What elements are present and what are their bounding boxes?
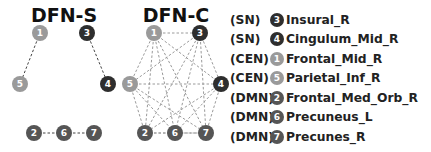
node-dfn-c-5: 5 xyxy=(122,76,138,92)
legend-region: Insural_R xyxy=(286,13,350,27)
legend-node-badge: 2 xyxy=(270,91,284,105)
edge-dfn-c-3-6 xyxy=(175,33,200,133)
legend: (SN)3Insural_R(SN)4Cingulum_Mid_R(CEN)1F… xyxy=(230,10,418,147)
panel-title-dfn-c: DFN-C xyxy=(143,4,209,26)
svg-text:7: 7 xyxy=(203,128,209,138)
edge-dfn-c-1-2 xyxy=(145,33,154,133)
legend-node-badge: 7 xyxy=(270,130,284,144)
edge-dfn-c-4-2 xyxy=(145,84,221,133)
legend-region: Frontal_Mid_R xyxy=(286,52,382,66)
legend-node-badge: 5 xyxy=(270,71,284,85)
legend-network: (DMN) xyxy=(230,130,270,144)
svg-text:2: 2 xyxy=(142,128,148,138)
legend-row: (DMN)6Precuneus_L xyxy=(230,108,418,128)
svg-text:2: 2 xyxy=(31,128,37,138)
legend-region: Precunes_R xyxy=(286,130,366,144)
svg-text:3: 3 xyxy=(197,28,203,38)
node-dfn-s-4: 4 xyxy=(100,76,116,92)
legend-node-badge: 4 xyxy=(270,32,284,46)
legend-network: (DMN) xyxy=(230,110,270,124)
edge-dfn-c-1-5 xyxy=(130,33,154,84)
edge-dfn-s-3-4 xyxy=(87,33,108,84)
svg-text:1: 1 xyxy=(37,28,43,38)
legend-network: (CEN) xyxy=(230,71,270,85)
svg-text:3: 3 xyxy=(84,28,90,38)
edge-dfn-s-1-5 xyxy=(20,33,40,84)
node-dfn-s-6: 6 xyxy=(56,125,72,141)
svg-text:6: 6 xyxy=(172,128,178,138)
legend-row: (CEN)5Parietal_Inf_R xyxy=(230,69,418,89)
node-dfn-c-1: 1 xyxy=(146,25,162,41)
legend-row: (SN)3Insural_R xyxy=(230,10,418,30)
node-dfn-c-2: 2 xyxy=(137,125,153,141)
svg-text:7: 7 xyxy=(91,128,97,138)
legend-region: Precuneus_L xyxy=(286,110,373,124)
node-dfn-c-6: 6 xyxy=(167,125,183,141)
legend-region: Frontal_Med_Orb_R xyxy=(286,91,418,105)
node-dfn-s-2: 2 xyxy=(26,125,42,141)
legend-node-badge: 6 xyxy=(270,110,284,124)
svg-text:5: 5 xyxy=(17,79,23,89)
edge-dfn-c-4-6 xyxy=(175,84,221,133)
node-dfn-c-7: 7 xyxy=(198,125,214,141)
svg-text:4: 4 xyxy=(105,79,111,89)
node-dfn-s-3: 3 xyxy=(79,25,95,41)
svg-text:5: 5 xyxy=(127,79,133,89)
edge-dfn-c-3-4 xyxy=(200,33,221,84)
nodes-layer: 13542671354267 xyxy=(12,25,229,141)
legend-node-badge: 1 xyxy=(270,52,284,66)
node-dfn-s-5: 5 xyxy=(12,76,28,92)
panel-title-dfn-s: DFN-S xyxy=(31,4,97,26)
edge-dfn-c-3-7 xyxy=(200,33,206,133)
legend-region: Cingulum_Mid_R xyxy=(286,32,398,46)
legend-row: (DMN)7Precunes_R xyxy=(230,127,418,147)
svg-text:6: 6 xyxy=(61,128,67,138)
edges-layer xyxy=(20,33,221,133)
legend-row: (DMN)2Frontal_Med_Orb_R xyxy=(230,88,418,108)
legend-region: Parietal_Inf_R xyxy=(286,71,380,85)
node-dfn-c-3: 3 xyxy=(192,25,208,41)
svg-text:4: 4 xyxy=(218,79,224,89)
legend-network: (SN) xyxy=(230,13,270,27)
legend-row: (SN)4Cingulum_Mid_R xyxy=(230,30,418,50)
legend-node-badge: 3 xyxy=(270,13,284,27)
node-dfn-c-4: 4 xyxy=(213,76,229,92)
legend-row: (CEN)1Frontal_Mid_R xyxy=(230,49,418,69)
legend-network: (SN) xyxy=(230,32,270,46)
node-dfn-s-1: 1 xyxy=(32,25,48,41)
svg-text:1: 1 xyxy=(151,28,157,38)
edge-dfn-c-3-5 xyxy=(130,33,200,84)
edge-dfn-c-3-2 xyxy=(145,33,200,133)
node-dfn-s-7: 7 xyxy=(86,125,102,141)
legend-network: (DMN) xyxy=(230,91,270,105)
legend-network: (CEN) xyxy=(230,52,270,66)
edge-dfn-c-1-6 xyxy=(154,33,175,133)
